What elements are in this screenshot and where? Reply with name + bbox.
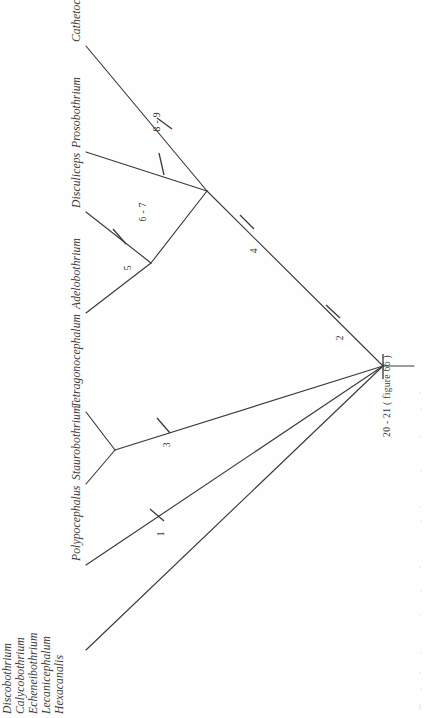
branch-prosobothrium <box>86 152 207 191</box>
branch-cathetocephalus <box>86 46 207 191</box>
taxon-label-polypocephalus: Polypocephalus <box>70 485 83 562</box>
node-label-3: 3 <box>161 442 172 447</box>
taxon-label-cathetocephalus: Cathetocephalus <box>70 0 83 42</box>
taxon-label-echeneibothrium: Echeneibothrium <box>27 633 40 715</box>
branch-lecanicephalid-group <box>86 366 383 650</box>
tick-1 <box>150 509 164 521</box>
node-number-labels: 8 - 9 6 - 7 5 4 3 2 1 20 - 21 ( figure 6… <box>122 112 393 536</box>
cladogram-figure: Cathetocephalus Prosobothrium Disculicep… <box>0 0 426 718</box>
taxon-label-staurobothrium: Staurobothrium <box>70 406 83 480</box>
branch-adelobothrium <box>86 263 151 313</box>
taxon-label-discobothrium: Discobothrium <box>1 643 14 715</box>
tick-3 <box>157 418 170 433</box>
node-label-root: 20 - 21 ( figure 66 ) <box>381 355 393 437</box>
taxon-label-disculiceps: Disculiceps <box>70 152 83 209</box>
branch-node-a-to-root <box>207 191 383 366</box>
node-label-1: 1 <box>155 531 166 536</box>
branch-tetragonocephalum <box>86 412 115 450</box>
branch-staurobothrium <box>86 450 115 484</box>
scan-artifacts <box>419 392 422 710</box>
node-label-5: 5 <box>122 265 133 270</box>
taxon-labels: Cathetocephalus Prosobothrium Disculicep… <box>1 0 83 715</box>
tree-branches <box>86 46 414 650</box>
taxon-label-tetragonocephalum: Tetragonocephalum <box>70 314 83 408</box>
node-label-8-9: 8 - 9 <box>151 112 162 132</box>
character-tick-marks <box>113 118 383 521</box>
tick-4 <box>240 215 254 229</box>
taxon-label-adelobothrium: Adelobothrium <box>70 238 83 310</box>
node-label-2: 2 <box>334 335 345 340</box>
taxon-label-calycobothrium: Calycobothrium <box>14 637 27 714</box>
tick-5 <box>113 229 126 244</box>
branch-node-c-to-root <box>115 366 383 450</box>
cladogram-canvas: Cathetocephalus Prosobothrium Disculicep… <box>0 0 426 718</box>
branch-polypocephalus <box>86 366 383 565</box>
tick-6-7 <box>159 153 164 175</box>
taxon-label-lecanicephalum: Lecanicephalum <box>40 636 53 715</box>
taxon-label-hexacanalis: Hexacanalis <box>53 655 66 715</box>
taxon-label-prosobothrium: Prosobothrium <box>70 77 83 149</box>
node-label-6-7: 6 - 7 <box>137 202 148 222</box>
branch-node-b-to-node-a <box>151 191 207 263</box>
node-label-4: 4 <box>248 248 259 253</box>
